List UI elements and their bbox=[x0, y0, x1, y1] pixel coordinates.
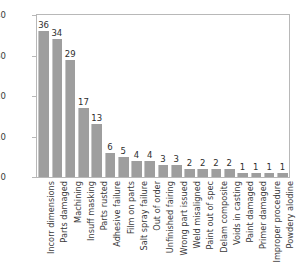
y-tick-mark bbox=[32, 15, 36, 16]
bar[interactable] bbox=[65, 60, 76, 177]
bar-value-label: 36 bbox=[38, 21, 49, 30]
bar-value-label: 1 bbox=[280, 163, 285, 172]
bar[interactable] bbox=[105, 153, 116, 177]
bar[interactable] bbox=[38, 31, 49, 177]
bar-value-label: 5 bbox=[120, 147, 125, 156]
bar[interactable] bbox=[52, 39, 63, 177]
bar-value-label: 3 bbox=[174, 155, 179, 164]
bar-value-label: 1 bbox=[266, 163, 271, 172]
x-tick-label-slot: Parts rusted bbox=[90, 179, 103, 269]
x-tick-label-slot: Machining bbox=[64, 179, 77, 269]
bar-value-label: 29 bbox=[65, 50, 76, 59]
x-tick-label-slot: Parts damaged bbox=[50, 179, 63, 269]
bar-series: 363429171365443322221111 bbox=[37, 15, 289, 177]
bar[interactable] bbox=[251, 173, 262, 177]
x-tick-label-slot: Voids in casting bbox=[223, 179, 236, 269]
x-axis-tick-labels: Incorr dimensionsParts damagedMachiningI… bbox=[37, 179, 289, 269]
bar-slot: 5 bbox=[118, 15, 129, 177]
bar[interactable] bbox=[277, 173, 288, 177]
bar-value-label: 6 bbox=[107, 143, 112, 152]
x-tick-label-slot: Delam composite bbox=[209, 179, 222, 269]
bar-value-label: 1 bbox=[240, 163, 245, 172]
x-tick-label-slot: Out of order bbox=[143, 179, 156, 269]
bar-value-label: 4 bbox=[147, 151, 152, 160]
y-tick-mark bbox=[32, 177, 36, 178]
x-tick-label-slot: Salt spray failure bbox=[130, 179, 143, 269]
bar-value-label: 13 bbox=[91, 114, 102, 123]
x-tick-label-slot: Weld misaligned bbox=[183, 179, 196, 269]
bar-value-label: 3 bbox=[160, 155, 165, 164]
y-tick-mark bbox=[32, 96, 36, 97]
x-tick-label-slot: Paint out of spec bbox=[196, 179, 209, 269]
bar-slot: 4 bbox=[131, 15, 142, 177]
y-tick-label: 40 bbox=[0, 10, 6, 20]
bar-value-label: 2 bbox=[227, 159, 232, 168]
y-tick-label: 20 bbox=[0, 91, 6, 101]
bar[interactable] bbox=[131, 161, 142, 177]
bar[interactable] bbox=[237, 173, 248, 177]
bar-slot: 29 bbox=[65, 15, 76, 177]
bar-slot: 2 bbox=[184, 15, 195, 177]
bar-value-label: 4 bbox=[134, 151, 139, 160]
y-tick-mark bbox=[32, 137, 36, 138]
bar-value-label: 1 bbox=[253, 163, 258, 172]
y-tick-mark bbox=[32, 56, 36, 57]
bar[interactable] bbox=[158, 165, 169, 177]
bar[interactable] bbox=[197, 169, 208, 177]
bar-slot: 34 bbox=[52, 15, 63, 177]
bar-value-label: 34 bbox=[51, 29, 62, 38]
x-tick-label-slot: Improper procedure bbox=[262, 179, 275, 269]
bar-slot: 13 bbox=[91, 15, 102, 177]
bar[interactable] bbox=[78, 108, 89, 177]
bar-slot: 2 bbox=[197, 15, 208, 177]
bar[interactable] bbox=[264, 173, 275, 177]
bar-slot: 1 bbox=[277, 15, 288, 177]
bar-value-label: 17 bbox=[78, 98, 89, 107]
x-tick-label-slot: Adhesive failure bbox=[103, 179, 116, 269]
bar[interactable] bbox=[171, 165, 182, 177]
bar-slot: 3 bbox=[158, 15, 169, 177]
bar-slot: 2 bbox=[224, 15, 235, 177]
bar[interactable] bbox=[211, 169, 222, 177]
bar-chart-figure: 010203040 363429171365443322221111 Incor… bbox=[0, 0, 306, 270]
bar[interactable] bbox=[91, 124, 102, 177]
bar[interactable] bbox=[144, 161, 155, 177]
y-tick-label: 10 bbox=[0, 132, 6, 142]
y-axis: 010203040 bbox=[0, 0, 36, 270]
y-tick-label: 30 bbox=[0, 51, 6, 61]
bar[interactable] bbox=[118, 157, 129, 177]
bar-slot: 2 bbox=[211, 15, 222, 177]
bar[interactable] bbox=[184, 169, 195, 177]
bar-slot: 1 bbox=[237, 15, 248, 177]
bar-value-label: 2 bbox=[213, 159, 218, 168]
y-tick-label: 0 bbox=[1, 172, 6, 182]
x-tick-label: Powdery alodine bbox=[286, 181, 295, 248]
x-tick-label-slot: Insuff masking bbox=[77, 179, 90, 269]
x-tick-label-slot: Wrong part issued bbox=[170, 179, 183, 269]
bar-value-label: 2 bbox=[200, 159, 205, 168]
bar-slot: 4 bbox=[144, 15, 155, 177]
bar-value-label: 2 bbox=[187, 159, 192, 168]
bar[interactable] bbox=[224, 169, 235, 177]
bar-slot: 1 bbox=[264, 15, 275, 177]
x-tick-label-slot: Paint damaged bbox=[236, 179, 249, 269]
x-tick-label-slot: Film on parts bbox=[117, 179, 130, 269]
bar-slot: 6 bbox=[105, 15, 116, 177]
bar-slot: 17 bbox=[78, 15, 89, 177]
bar-slot: 36 bbox=[38, 15, 49, 177]
x-tick-label-slot: Unfinished fairing bbox=[156, 179, 169, 269]
x-tick-label-slot: Powdery alodine bbox=[276, 179, 289, 269]
bar-slot: 1 bbox=[251, 15, 262, 177]
bar-slot: 3 bbox=[171, 15, 182, 177]
x-tick-label-slot: Primer damaged bbox=[249, 179, 262, 269]
x-tick-label-slot: Incorr dimensions bbox=[37, 179, 50, 269]
